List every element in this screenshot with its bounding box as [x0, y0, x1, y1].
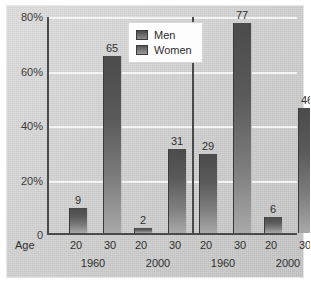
bar: 29 — [199, 154, 218, 233]
bar-chart-figure: 80%60%40%20%0 9652312977646 Men Women Ag… — [0, 0, 310, 283]
x-axis-age-tick: 20 — [70, 239, 82, 251]
bar-value-label: 29 — [202, 140, 214, 152]
bar-value-label: 77 — [236, 9, 248, 21]
x-axis-year-label: 2000 — [276, 257, 300, 269]
x-axis-age-label: Age — [15, 239, 35, 251]
bar: 46 — [298, 108, 311, 233]
legend-label-women: Women — [154, 44, 192, 56]
bar: 9 — [69, 208, 88, 233]
x-axis-age-tick: 30 — [169, 239, 181, 251]
chart-legend: Men Women — [128, 22, 203, 63]
x-axis-age-tick: 30 — [104, 239, 116, 251]
gridline — [49, 126, 297, 128]
legend-label-men: Men — [154, 29, 175, 41]
legend-swatch-women-icon — [136, 45, 148, 55]
bar: 31 — [168, 149, 187, 233]
bar: 65 — [103, 56, 122, 233]
bar: 2 — [134, 228, 153, 233]
y-axis-tick-label: 60% — [21, 66, 43, 78]
y-axis-tick-label: 20% — [21, 175, 43, 187]
y-axis-tick-label: 40% — [21, 120, 43, 132]
bar-value-label: 2 — [140, 214, 146, 226]
x-axis-label-group: Age 20301960203020002030196020302000 — [0, 238, 310, 280]
x-axis-year-label: 1960 — [81, 257, 105, 269]
bar-value-label: 46 — [301, 94, 310, 106]
legend-item-men: Men — [136, 27, 192, 42]
x-axis-age-tick: 30 — [299, 239, 310, 251]
legend-swatch-men-icon — [136, 30, 148, 40]
x-axis-age-tick: 20 — [135, 239, 147, 251]
bar: 6 — [264, 217, 283, 233]
x-axis-age-tick: 20 — [200, 239, 212, 251]
bar-value-label: 31 — [171, 135, 183, 147]
x-axis-year-label: 1960 — [211, 257, 235, 269]
bar-value-label: 65 — [106, 42, 118, 54]
gridline — [49, 72, 297, 74]
x-axis-age-tick: 20 — [265, 239, 277, 251]
x-axis-age-tick: 30 — [234, 239, 246, 251]
bar: 77 — [233, 23, 252, 233]
legend-item-women: Women — [136, 42, 192, 57]
x-axis-year-label: 2000 — [146, 257, 170, 269]
bar-value-label: 9 — [75, 194, 81, 206]
gridline — [49, 17, 297, 19]
y-axis-tick-label: 80% — [21, 11, 43, 23]
bar-value-label: 6 — [270, 203, 276, 215]
